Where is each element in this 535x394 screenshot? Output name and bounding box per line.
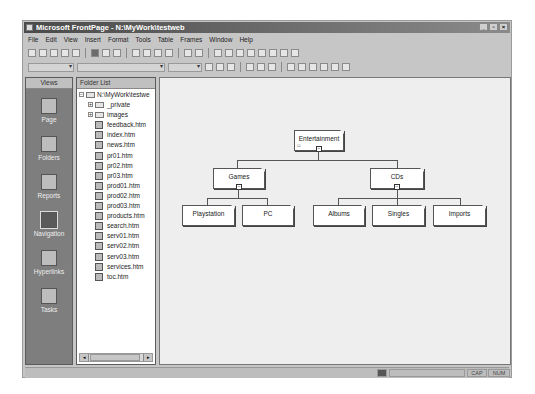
nav-node-imports[interactable]: Imports <box>433 205 486 226</box>
paste-icon[interactable] <box>154 49 162 57</box>
font-size-dropdown[interactable] <box>168 63 202 72</box>
increase-indent-icon[interactable] <box>320 63 328 71</box>
menu-help[interactable]: Help <box>239 35 252 45</box>
tree-file[interactable]: serv01.htm <box>79 231 155 241</box>
view-tasks[interactable]: Tasks <box>26 288 72 313</box>
nav-node-singles[interactable]: Singles <box>372 205 425 226</box>
folder-list-toggle-icon[interactable] <box>72 49 80 57</box>
menu-view[interactable]: View <box>64 35 78 45</box>
tree-folder[interactable]: + images <box>79 110 155 120</box>
refresh-icon[interactable] <box>258 49 266 57</box>
show-all-icon[interactable] <box>280 49 288 57</box>
spelling-icon[interactable] <box>113 49 121 57</box>
tree-file[interactable]: feedback.htm <box>79 120 155 130</box>
redo-icon[interactable] <box>195 49 203 57</box>
tree-file[interactable]: toc.htm <box>79 272 155 282</box>
stop-icon[interactable] <box>269 49 277 57</box>
menu-frames[interactable]: Frames <box>180 35 202 45</box>
publish-icon[interactable] <box>61 49 69 57</box>
scroll-thumb[interactable] <box>90 354 140 361</box>
standard-toolbar <box>25 47 299 59</box>
decrease-indent-icon[interactable] <box>309 63 317 71</box>
frontpage-app-icon[interactable] <box>26 24 33 31</box>
bulleted-list-icon[interactable] <box>298 63 306 71</box>
nav-node-cds[interactable]: CDs − <box>370 168 424 189</box>
nav-node-albums[interactable]: Albums <box>313 205 365 226</box>
tree-file[interactable]: news.htm <box>79 140 155 150</box>
nav-node-games[interactable]: Games − <box>213 168 265 189</box>
restore-button[interactable]: ▫ <box>489 23 498 31</box>
highlight-icon[interactable] <box>331 63 339 71</box>
scroll-right-icon[interactable]: ▸ <box>143 354 152 361</box>
menu-table[interactable]: Table <box>158 35 174 45</box>
view-folders[interactable]: Folders <box>26 136 72 161</box>
collapse-icon[interactable]: − <box>79 92 84 97</box>
new-page-icon[interactable] <box>28 49 36 57</box>
view-page[interactable]: Page <box>26 98 72 123</box>
menu-edit[interactable]: Edit <box>45 35 56 45</box>
close-button[interactable]: × <box>499 23 508 31</box>
nav-node-pc[interactable]: PC <box>242 205 294 226</box>
tree-root[interactable]: − N:\MyWork\testwe <box>79 90 155 100</box>
menu-window[interactable]: Window <box>209 35 232 45</box>
minimize-button[interactable]: _ <box>479 23 488 31</box>
view-navigation[interactable]: Navigation <box>26 212 72 237</box>
nav-node-playstation[interactable]: Playstation <box>182 205 235 226</box>
toolbar-separator <box>208 48 209 58</box>
underline-icon[interactable] <box>227 63 235 71</box>
undo-icon[interactable] <box>184 49 192 57</box>
tree-file[interactable]: prod01.htm <box>79 181 155 191</box>
title-bar[interactable]: Microsoft FrontPage - N:\MyWork\testweb … <box>24 22 510 33</box>
toolbar-separator <box>126 48 127 58</box>
tree-file[interactable]: prod03.htm <box>79 201 155 211</box>
tree-file[interactable]: products.htm <box>79 211 155 221</box>
menu-file[interactable]: File <box>28 35 38 45</box>
page-icon <box>41 98 57 114</box>
cut-icon[interactable] <box>132 49 140 57</box>
tree-file[interactable]: services.htm <box>79 262 155 272</box>
connector <box>207 198 267 199</box>
font-color-icon[interactable] <box>342 63 350 71</box>
bold-icon[interactable] <box>205 63 213 71</box>
tree-file[interactable]: serv02.htm <box>79 241 155 251</box>
style-dropdown[interactable] <box>28 63 74 72</box>
collapse-icon[interactable]: − <box>236 184 242 190</box>
tree-file[interactable]: serv03.htm <box>79 252 155 262</box>
expand-icon[interactable]: + <box>88 102 93 107</box>
open-icon[interactable] <box>39 49 47 57</box>
scroll-left-icon[interactable]: ◂ <box>80 354 89 361</box>
expand-icon[interactable]: + <box>88 112 93 117</box>
tree-folder[interactable]: + _private <box>79 100 155 110</box>
tree-file[interactable]: pr01.htm <box>79 151 155 161</box>
tree-file[interactable]: prod02.htm <box>79 191 155 201</box>
preview-icon[interactable] <box>102 49 110 57</box>
tree-file[interactable]: index.htm <box>79 130 155 140</box>
view-hyperlinks[interactable]: Hyperlinks <box>26 250 72 275</box>
font-dropdown[interactable] <box>77 63 165 72</box>
view-reports[interactable]: Reports <box>26 174 72 199</box>
save-icon[interactable] <box>50 49 58 57</box>
italic-icon[interactable] <box>216 63 224 71</box>
menu-insert[interactable]: Insert <box>85 35 101 45</box>
tree-file[interactable]: search.htm <box>79 221 155 231</box>
menu-tools[interactable]: Tools <box>136 35 151 45</box>
print-icon[interactable] <box>91 49 99 57</box>
nav-node-entertainment[interactable]: Entertainment ⌂ − <box>294 130 344 151</box>
numbered-list-icon[interactable] <box>287 63 295 71</box>
collapse-icon[interactable]: − <box>316 146 322 152</box>
align-left-icon[interactable] <box>246 63 254 71</box>
horizontal-scrollbar[interactable]: ◂ ▸ <box>79 353 153 362</box>
menu-format[interactable]: Format <box>108 35 129 45</box>
hyperlink-icon[interactable] <box>247 49 255 57</box>
insert-table-icon[interactable] <box>225 49 233 57</box>
tree-file[interactable]: pr02.htm <box>79 161 155 171</box>
copy-icon[interactable] <box>143 49 151 57</box>
insert-component-icon[interactable] <box>214 49 222 57</box>
help-icon[interactable] <box>291 49 299 57</box>
tree-file[interactable]: pr03.htm <box>79 171 155 181</box>
insert-picture-icon[interactable] <box>236 49 244 57</box>
align-center-icon[interactable] <box>257 63 265 71</box>
format-painter-icon[interactable] <box>165 49 173 57</box>
align-right-icon[interactable] <box>268 63 276 71</box>
view-label: Tasks <box>41 306 58 313</box>
